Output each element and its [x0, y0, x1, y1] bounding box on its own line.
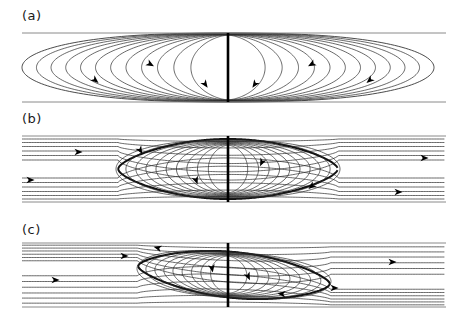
streamline [228, 145, 259, 194]
streamline [228, 33, 405, 101]
streamline [174, 35, 228, 100]
panel-b-plot [0, 107, 463, 215]
panel-c: (c) [0, 214, 463, 325]
flow-direction-arrow [75, 149, 83, 156]
streamline [22, 274, 444, 293]
flow-direction-arrow [395, 189, 403, 196]
streamline [142, 35, 228, 101]
panel-b-streamlines [22, 139, 444, 199]
streamline [22, 261, 444, 284]
streamline [228, 34, 375, 101]
panel-a-plot [0, 0, 463, 110]
streamline [22, 160, 444, 180]
flow-direction-arrow [208, 264, 216, 273]
streamline [22, 245, 444, 248]
flow-direction-arrow [244, 271, 253, 281]
streamline [228, 34, 361, 101]
streamline [191, 35, 228, 100]
streamline [228, 33, 420, 102]
panel-c-label: (c) [22, 222, 41, 237]
streamline [228, 33, 434, 102]
streamline [228, 35, 282, 100]
streamline [228, 141, 320, 197]
streamline [176, 143, 228, 194]
streamline [22, 151, 444, 164]
flow-direction-arrow [389, 259, 397, 266]
streamline [208, 145, 228, 193]
streamline [197, 145, 228, 194]
flow-direction-arrow [52, 277, 60, 284]
flow-direction-arrow [145, 59, 155, 69]
flow-direction-arrow [277, 290, 286, 297]
panel-b-label: (b) [22, 111, 42, 126]
streamline [22, 158, 444, 178]
streamline [22, 33, 228, 102]
panel-a: (a) [0, 0, 463, 110]
panel-b: (b) [0, 107, 463, 215]
flow-direction-arrow [306, 59, 316, 69]
flow-direction-arrow [200, 79, 210, 89]
flow-direction-arrow [121, 253, 129, 260]
streamline [22, 302, 444, 305]
streamline [228, 145, 248, 193]
panel-c-plot [0, 214, 463, 325]
streamline [228, 35, 314, 101]
panel-a-arrows [90, 59, 375, 89]
streamline [36, 33, 228, 102]
figure-root: (a) (b) (c) [0, 0, 463, 325]
flow-direction-arrow [331, 285, 339, 292]
streamline [22, 174, 444, 187]
streamline [81, 34, 228, 101]
streamline [51, 33, 228, 101]
streamline [96, 34, 229, 101]
panel-a-label: (a) [22, 8, 42, 23]
panel-c-streamlines [22, 245, 444, 305]
streamline [22, 267, 444, 290]
streamline [22, 258, 444, 277]
streamline [136, 141, 228, 197]
streamline [228, 35, 265, 100]
streamline [228, 143, 280, 194]
